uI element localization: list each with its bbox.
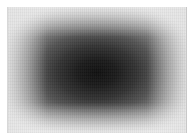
gradient-frame (7, 7, 187, 133)
grain-texture (8, 7, 186, 133)
image-canvas (0, 0, 194, 136)
